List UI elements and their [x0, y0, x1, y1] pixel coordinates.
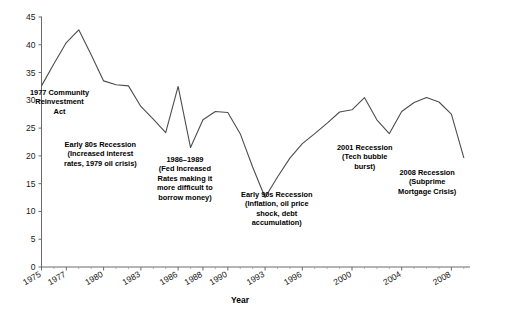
annotation-line: Rates making it: [157, 174, 213, 183]
x-axis-title: Year: [231, 295, 250, 305]
x-tick-label: 1996: [282, 269, 304, 287]
annotation-line: 1977 Community: [30, 88, 89, 97]
x-tick-label: 2008: [431, 269, 453, 287]
x-tick-label: 2000: [332, 269, 354, 287]
annotation-line: 1986–1989: [157, 155, 213, 164]
annotation-line: (Increased interest: [64, 149, 137, 158]
annotation-line: Early 90s Recession: [241, 190, 313, 199]
line-chart: 051015202530354045 197519771980198319861…: [0, 0, 507, 314]
x-tick-label: 1988: [183, 269, 205, 287]
annotation-1986-1989-fed-rates: 1986–1989(Fed IncreasedRates making itmo…: [157, 155, 213, 202]
annotation-line: burst): [337, 162, 392, 171]
annotation-line: (Inflation, oil price: [241, 199, 313, 208]
y-tick-label: 40: [26, 40, 36, 50]
y-axis: 051015202530354045: [26, 12, 41, 272]
x-tick-label: 1986: [158, 269, 180, 287]
y-tick-label: 10: [26, 206, 36, 216]
y-tick-label: 45: [26, 12, 36, 22]
annotation-line: (Tech bubble: [337, 152, 392, 161]
annotation-line: (Fed Increased: [157, 164, 213, 173]
annotation-2008-recession: 2008 Recession(SubprimeMortgage Crisis): [398, 168, 456, 196]
annotation-line: shock, debt: [241, 209, 313, 218]
annotation-line: borrow money): [157, 193, 213, 202]
annotation-line: accumulation): [241, 218, 313, 227]
annotation-line: Mortgage Crisis): [398, 187, 456, 196]
annotation-early-90s-recession: Early 90s Recession(Inflation, oil price…: [241, 190, 313, 228]
y-tick-label: 20: [26, 151, 36, 161]
annotation-line: (Subprime: [398, 177, 456, 186]
y-tick-label: 15: [26, 179, 36, 189]
annotation-2001-recession: 2001 Recession(Tech bubbleburst): [337, 143, 392, 171]
x-tick-label: 1993: [245, 269, 267, 287]
annotation-line: more difficult to: [157, 183, 213, 192]
annotation-line: 2001 Recession: [337, 143, 392, 152]
x-tick-label: 1983: [120, 269, 142, 287]
annotation-line: Act: [30, 107, 89, 116]
x-tick-label: 2004: [381, 269, 403, 287]
annotation-line: rates, 1979 oil crisis): [64, 159, 137, 168]
y-tick-label: 5: [31, 234, 36, 244]
annotation-1977-community-reinvestment-act: 1977 CommunityReinvestmentAct: [30, 88, 89, 116]
y-tick-label: 35: [26, 68, 36, 78]
annotation-line: Early 80s Recession: [64, 140, 137, 149]
y-tick-label: 25: [26, 123, 36, 133]
x-tick-label: 1980: [83, 269, 105, 287]
annotation-early-80s-recession: Early 80s Recession(Increased interestra…: [64, 140, 137, 168]
x-axis: 1975197719801983198619881990199319962000…: [21, 267, 470, 287]
annotation-line: Reinvestment: [30, 97, 89, 106]
x-tick-label: 1990: [207, 269, 229, 287]
x-tick-label: 1977: [46, 269, 68, 287]
annotation-line: 2008 Recession: [398, 168, 456, 177]
x-tick-label: 1975: [21, 269, 43, 287]
